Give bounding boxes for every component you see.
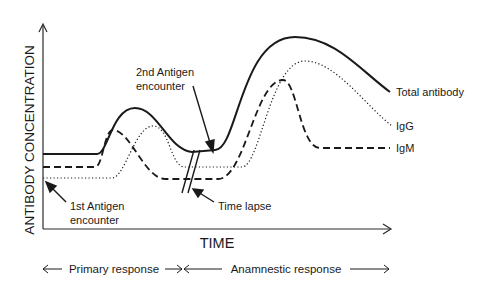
second-antigen-label-line1: 2nd Antigen	[136, 66, 194, 78]
igm-label: IgM	[396, 142, 414, 154]
igm-curve	[43, 80, 390, 179]
first-antigen-label-line2: encounter	[70, 214, 119, 226]
total-antibody-curve	[43, 37, 390, 154]
antibody-response-diagram: ANTIBODY CONCENTRATION TIME Total antibo…	[0, 0, 486, 283]
y-axis-label: ANTIBODY CONCENTRATION	[22, 45, 37, 234]
anamnestic-response-label: Anamnestic response	[231, 263, 342, 275]
igg-curve	[43, 61, 392, 178]
second-antigen-arrow-icon	[193, 86, 214, 152]
second-antigen-label-line2: encounter	[136, 80, 185, 92]
time-lapse-label: Time lapse	[218, 200, 271, 212]
total-antibody-label: Total antibody	[396, 86, 464, 98]
time-lapse-arrow-icon	[193, 189, 214, 202]
time-lapse-break-icon	[182, 150, 200, 193]
first-antigen-label-line1: 1st Antigen	[70, 200, 124, 212]
igg-label: IgG	[396, 120, 414, 132]
first-antigen-arrow-icon	[46, 182, 66, 202]
x-axis-label: TIME	[200, 235, 235, 251]
primary-response-label: Primary response	[69, 263, 159, 275]
